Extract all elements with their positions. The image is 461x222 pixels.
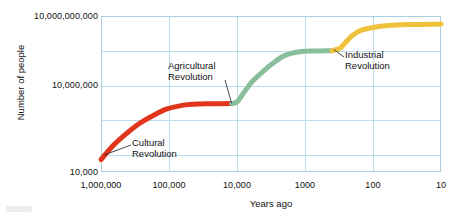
curve-segment-industrial-revolution (332, 24, 441, 51)
curve-segment-agricultural-revolution (232, 51, 332, 104)
annotation-industrial-line1: Industrial (345, 49, 390, 60)
population-growth-chart: 10,000,000,000 10,000,000 10,000 Number … (0, 0, 461, 222)
annotation-agricultural-revolution: Agricultural Revolution (168, 60, 216, 82)
annotation-agricultural-line1: Agricultural (168, 60, 216, 71)
annotation-cultural-revolution: Cultural Revolution (132, 137, 177, 159)
annotation-agricultural-line2: Revolution (168, 71, 216, 82)
page-artifact-mark (6, 206, 32, 212)
annotation-industrial-revolution: Industrial Revolution (345, 49, 390, 71)
annotation-industrial-line2: Revolution (345, 60, 390, 71)
annotation-cultural-line1: Cultural (132, 137, 177, 148)
annotation-cultural-line2: Revolution (132, 148, 177, 159)
leader-line-agricultural (225, 80, 232, 103)
population-curve (0, 0, 461, 222)
